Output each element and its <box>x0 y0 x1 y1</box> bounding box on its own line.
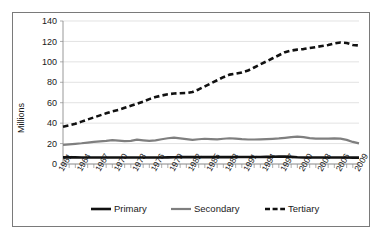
y-axis-title-label: Millions <box>16 103 26 134</box>
y-tick-label: 60 <box>47 98 57 108</box>
legend-label-primary: Primary <box>114 203 147 214</box>
y-tick-label: 100 <box>42 57 57 67</box>
x-tick-label: 2000 <box>297 151 315 173</box>
y-tick-label: 80 <box>47 77 57 87</box>
x-tick-label: 1961 <box>56 151 74 173</box>
y-tick-label: 20 <box>47 139 57 149</box>
legend-label-secondary: Secondary <box>194 203 240 214</box>
x-tick-label: 1997 <box>278 151 296 173</box>
gridlines <box>63 21 359 164</box>
x-tick-label: 1982 <box>186 151 204 173</box>
series-line-tertiary <box>63 42 359 126</box>
x-tick-label: 1964 <box>75 151 93 173</box>
x-tick-label: 1967 <box>93 151 111 173</box>
x-tick-label: 1979 <box>167 151 185 173</box>
x-tick-label: 1973 <box>130 151 148 173</box>
x-tick-label: 1970 <box>112 151 130 173</box>
x-tick-label: 1994 <box>260 151 278 173</box>
series-line-primary <box>63 157 359 158</box>
x-tick-label: 2009 <box>352 151 369 173</box>
y-tick-label: 40 <box>47 118 57 128</box>
y-tick-label: 120 <box>42 37 57 47</box>
y-axis: 020406080100120140 <box>42 16 63 169</box>
x-tick-label: 2006 <box>334 151 352 173</box>
x-tick-label: 1988 <box>223 151 241 173</box>
chart-container: 020406080100120140 196119641967197019731… <box>12 12 370 227</box>
chart-legend: PrimarySecondaryTertiary <box>91 203 319 214</box>
x-tick-label: 1976 <box>149 151 167 173</box>
y-tick-label: 140 <box>42 16 57 26</box>
y-axis-title: Millions <box>16 103 26 134</box>
data-series <box>63 42 359 157</box>
x-tick-label: 2003 <box>315 151 333 173</box>
x-axis: 1961196419671970197319761979198219851988… <box>56 151 369 173</box>
legend-label-tertiary: Tertiary <box>288 203 319 214</box>
x-tick-label: 1991 <box>241 151 259 173</box>
x-tick-label: 1985 <box>204 151 222 173</box>
line-chart: 020406080100120140 196119641967197019731… <box>13 13 369 226</box>
